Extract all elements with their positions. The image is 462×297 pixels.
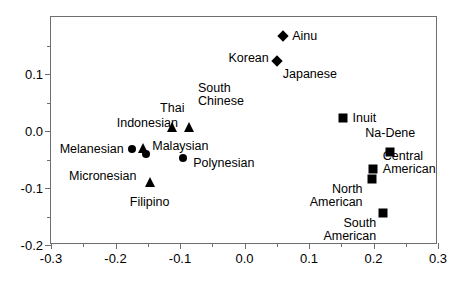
x-tick-minor [212,243,213,247]
x-axis-tick-label: 0.2 [364,251,382,266]
x-tick-major [374,243,375,249]
data-point-inuit [338,114,347,123]
x-axis-tick-label: -0.3 [40,251,62,266]
y-tick-minor [47,103,51,104]
y-tick-major [45,245,51,246]
x-tick-major [309,243,310,249]
data-point-polynesian [179,154,187,162]
data-point-ainu [278,30,289,41]
x-tick-minor [341,243,342,247]
x-axis-tick-label: 0.1 [300,251,318,266]
y-tick-major [45,74,51,75]
y-tick-minor [47,46,51,47]
x-axis-tick-label: -0.1 [169,251,191,266]
x-axis-tick-label: 0.0 [235,251,253,266]
y-axis-tick-label: 0.0 [25,124,43,139]
scatter-plot-figure: -0.3-0.2-0.10.00.10.20.3-0.2-0.10.00.1 A… [0,0,462,297]
point-label-malaysian: Malaysian [152,139,208,152]
point-label-central-american: Central American [383,150,436,176]
y-axis-tick-label: -0.1 [21,181,43,196]
point-label-micronesian: Micronesian [69,170,136,183]
point-label-filipino: Filipino [130,196,170,209]
data-point-south-chinese [184,122,194,132]
y-tick-minor [47,217,51,218]
data-point-melanesian [128,145,136,153]
point-label-na-dene: Na-Dene [365,127,415,140]
x-tick-major [180,243,181,249]
x-tick-major [116,243,117,249]
point-label-ainu: Ainu [292,29,317,42]
point-label-inuit: Inuit [353,112,377,125]
y-tick-minor [47,160,51,161]
x-tick-minor [148,243,149,247]
data-point-south-american [379,208,388,217]
y-tick-major [45,188,51,189]
x-tick-minor [277,243,278,247]
data-point-filipino [145,177,155,187]
data-point-malaysian [138,143,148,153]
point-label-korean: Korean [228,52,268,65]
y-tick-major [45,131,51,132]
point-label-melanesian: Melanesian [60,143,124,156]
point-label-japanese: Japanese [283,68,337,81]
plot-frame: -0.3-0.2-0.10.00.10.20.3-0.2-0.10.00.1 A… [50,16,437,244]
data-point-north-american [367,174,376,183]
point-label-thai: Thai [160,102,184,115]
point-label-indonesian: Indonesian [117,117,178,130]
x-axis-tick-label: -0.2 [104,251,126,266]
point-label-south-chinese: South Chinese [198,82,244,108]
x-tick-minor [406,243,407,247]
x-tick-major [51,243,52,249]
x-tick-major [245,243,246,249]
y-axis-tick-label: -0.2 [21,238,43,253]
point-label-north-american: North American [310,183,363,209]
x-tick-major [438,243,439,249]
point-label-polynesian: Polynesian [193,157,254,170]
x-axis-tick-label: 0.3 [429,251,447,266]
data-point-central-american [368,164,377,173]
x-tick-minor [83,243,84,247]
data-point-korean [271,56,282,67]
y-axis-tick-label: 0.1 [25,67,43,82]
point-label-south-american: South American [323,217,376,243]
